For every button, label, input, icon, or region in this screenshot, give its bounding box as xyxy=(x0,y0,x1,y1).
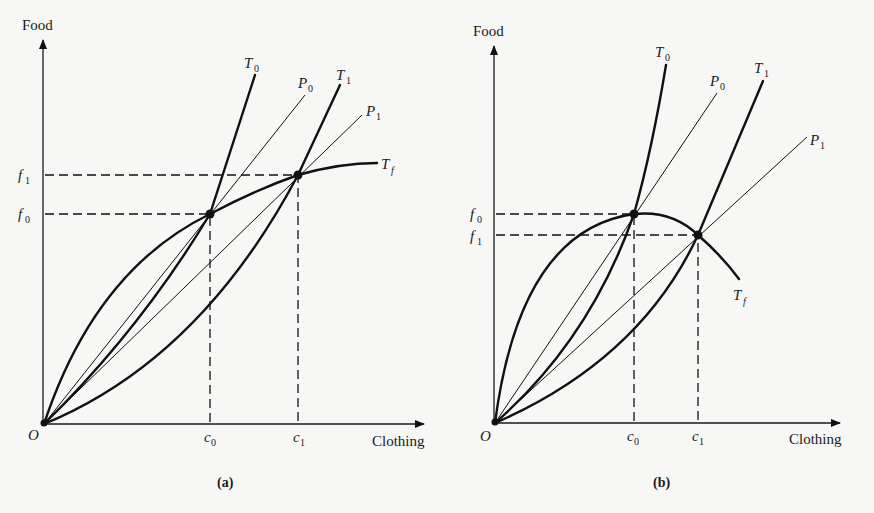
svg-text:P: P xyxy=(365,103,375,119)
panel-b: Food Clothing O T 0 P 0 T 1 P 1 T f f 0 … xyxy=(470,23,842,491)
svg-text:0: 0 xyxy=(634,436,639,447)
svg-text:0: 0 xyxy=(308,83,313,94)
point-e0 xyxy=(206,210,215,219)
origin-label: O xyxy=(480,428,491,444)
label-t0: T 0 xyxy=(655,44,670,63)
origin-label: O xyxy=(28,427,39,443)
point-e1 xyxy=(294,171,303,180)
svg-text:P: P xyxy=(297,75,307,91)
label-t1: T 1 xyxy=(754,60,769,79)
caption-b: (b) xyxy=(653,475,670,491)
svg-text:f: f xyxy=(18,167,24,183)
t0-curve xyxy=(495,65,666,423)
svg-text:T: T xyxy=(655,44,665,60)
label-f1: f 1 xyxy=(470,228,482,247)
point-e1 xyxy=(694,231,703,240)
label-f1: f 1 xyxy=(18,167,30,186)
y-axis-label: Food xyxy=(473,23,504,39)
caption-a: (a) xyxy=(217,475,234,491)
origin-point xyxy=(41,420,48,427)
svg-text:1: 1 xyxy=(820,140,825,151)
label-p1: P 1 xyxy=(809,132,825,151)
x-axis-label: Clothing xyxy=(372,433,425,449)
svg-text:0: 0 xyxy=(211,437,216,448)
panel-a: Food Clothing O T 0 P 0 T 1 P 1 T f f 1 … xyxy=(18,17,425,491)
svg-text:1: 1 xyxy=(25,175,30,186)
svg-text:1: 1 xyxy=(346,75,351,86)
label-f0: f 0 xyxy=(18,206,30,225)
p1-line xyxy=(495,137,807,423)
p0-line xyxy=(495,93,717,423)
svg-text:T: T xyxy=(244,55,254,71)
p0-line xyxy=(44,95,305,424)
tf-curve xyxy=(495,213,739,423)
y-axis-label: Food xyxy=(22,17,53,33)
svg-text:P: P xyxy=(809,132,819,148)
t1-curve xyxy=(44,85,340,424)
svg-text:f: f xyxy=(18,206,24,222)
svg-text:T: T xyxy=(381,156,391,172)
label-c0: c 0 xyxy=(627,428,639,447)
svg-text:0: 0 xyxy=(720,81,725,92)
label-tf: T f xyxy=(733,287,747,307)
p1-line xyxy=(44,115,362,424)
label-c0: c 0 xyxy=(204,429,216,448)
svg-text:T: T xyxy=(733,287,743,303)
point-e0 xyxy=(630,210,639,219)
label-c1: c 1 xyxy=(692,428,704,447)
label-f0: f 0 xyxy=(470,206,482,225)
label-p0: P 0 xyxy=(297,75,313,94)
svg-text:c: c xyxy=(293,429,300,445)
svg-text:c: c xyxy=(627,428,634,444)
x-axis-label: Clothing xyxy=(789,431,842,447)
figure: Food Clothing O T 0 P 0 T 1 P 1 T f f 1 … xyxy=(0,0,874,513)
svg-text:0: 0 xyxy=(25,214,30,225)
label-p0: P 0 xyxy=(709,73,725,92)
origin-point xyxy=(492,419,499,426)
label-tf: T f xyxy=(381,156,395,176)
svg-text:f: f xyxy=(743,296,747,307)
svg-text:f: f xyxy=(470,228,476,244)
svg-text:1: 1 xyxy=(376,111,381,122)
label-t0: T 0 xyxy=(244,55,259,74)
svg-text:T: T xyxy=(336,67,346,83)
svg-text:1: 1 xyxy=(300,437,305,448)
svg-text:1: 1 xyxy=(477,236,482,247)
label-c1: c 1 xyxy=(293,429,305,448)
svg-text:1: 1 xyxy=(699,436,704,447)
label-p1: P 1 xyxy=(365,103,381,122)
svg-text:f: f xyxy=(470,206,476,222)
svg-text:f: f xyxy=(391,165,395,176)
svg-text:T: T xyxy=(754,60,764,76)
label-t1: T 1 xyxy=(336,67,351,86)
svg-text:0: 0 xyxy=(665,52,670,63)
svg-text:c: c xyxy=(204,429,211,445)
t1-curve xyxy=(495,81,763,423)
svg-text:0: 0 xyxy=(477,214,482,225)
svg-text:P: P xyxy=(709,73,719,89)
svg-text:1: 1 xyxy=(764,68,769,79)
svg-text:0: 0 xyxy=(254,63,259,74)
svg-text:c: c xyxy=(692,428,699,444)
